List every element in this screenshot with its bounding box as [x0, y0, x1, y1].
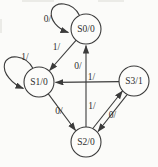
transition-s3-to-s1-label: 1/	[88, 72, 96, 82]
state-s3-label: S3/1	[125, 76, 143, 86]
transition-s2-to-s3-label: 1/	[88, 101, 96, 111]
transition-s2-to-s3	[93, 91, 123, 129]
transition-s3-to-s2-label: 0/	[109, 110, 117, 120]
transition-s1-to-s2-label: 0/	[55, 106, 63, 116]
transition-s0-to-s1-label: 1/	[53, 42, 61, 52]
transition-s1-to-s1-label: 1/	[21, 52, 29, 62]
state-s2-label: S2/0	[77, 137, 95, 147]
state-diagram-canvas: S0/0 S1/0 S3/1 S2/0 0/ 1/ 1/ 0/ 1/ 0/ 1/…	[0, 0, 158, 167]
state-s0-label: S0/0	[77, 24, 95, 34]
transition-s0-to-s0-label: 0/	[44, 14, 52, 24]
transition-s2-to-s0-label: 0/	[74, 61, 82, 71]
state-diagram: S0/0 S1/0 S3/1 S2/0 0/ 1/ 1/ 0/ 1/ 0/ 1/…	[0, 0, 158, 167]
state-s1-label: S1/0	[30, 77, 48, 87]
